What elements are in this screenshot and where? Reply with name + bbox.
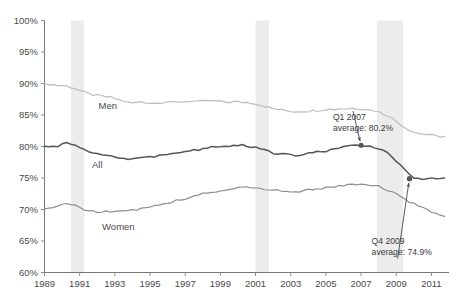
annotation-q1-2007-line2: average: 80.2% [333,123,394,133]
x-tick-label: 1991 [69,278,90,289]
x-tick-label: 1989 [34,278,55,289]
x-tick-label: 1993 [104,278,125,289]
annotation-q1-2007-line1: Q1 2007 [333,112,366,122]
employment-rate-line-chart: 60%65%70%75%80%85%90%95%100% 19891991199… [0,0,458,307]
series-label-men: Men [99,100,117,111]
x-tick-label: 2001 [245,278,266,289]
x-tick-label: 2011 [421,278,441,289]
x-tick-label: 1997 [175,278,196,289]
y-tick-label: 60% [19,267,39,278]
x-tick-label: 1995 [139,278,160,289]
series-label-all: All [92,159,103,170]
x-tick-label: 2005 [315,278,336,289]
x-axis-tick-labels: 1989199119931995199719992001200320052007… [34,273,442,289]
y-tick-label: 90% [19,78,39,89]
y-axis-tick-labels: 60%65%70%75%80%85%90%95%100% [14,15,45,278]
x-tick-label: 1999 [210,278,231,289]
recession-bands-group [71,21,403,273]
y-tick-label: 70% [19,204,39,215]
y-tick-label: 75% [19,172,39,183]
annotation-q1-2007-marker-dot [358,143,363,148]
y-tick-label: 65% [19,235,39,246]
y-tick-label: 80% [19,141,39,152]
x-tick-label: 2009 [386,278,407,289]
series-label-women: Women [102,221,135,232]
chart-canvas: 60%65%70%75%80%85%90%95%100% 19891991199… [0,0,458,307]
x-tick-label: 2007 [350,278,371,289]
annotation-q4-2009-line2: average: 74.9% [372,247,433,257]
annotation-q4-2009-marker-dot [407,176,412,181]
x-tick-label: 2003 [280,278,301,289]
y-tick-label: 95% [19,46,39,57]
y-tick-label: 100% [14,15,39,26]
y-tick-label: 85% [19,109,39,120]
recession-2001 [256,21,269,273]
